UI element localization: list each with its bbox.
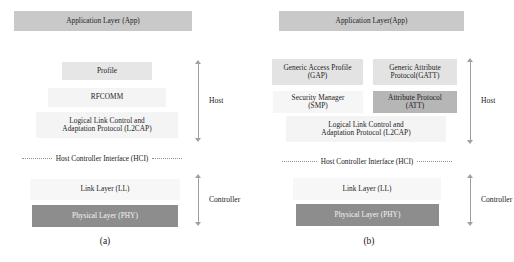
hci-divider-line-left-b xyxy=(282,161,317,162)
layer-smp-b-label-line2: (SMP) xyxy=(308,102,328,110)
bracket-host-a-label: Host xyxy=(209,96,223,105)
layer-l2cap-a-label-line2: Adaptation Protocol (L2CAP) xyxy=(62,125,151,133)
bracket-controller-a-arrow-down xyxy=(195,222,201,226)
layer-gap-b-label-line2: (GAP) xyxy=(308,72,328,80)
bracket-host-b-arrow-down xyxy=(467,140,473,144)
panel-a: Application Layer (App) Profile RFCOMM L… xyxy=(0,0,257,262)
layer-application-a-label: Application Layer (App) xyxy=(66,17,140,25)
layer-link-a: Link Layer (LL) xyxy=(30,179,180,200)
bracket-host-a-arrow-down xyxy=(195,138,201,142)
layer-att-b-label-line2: (ATT) xyxy=(406,102,425,110)
layer-gatt-b-label-line2: Protocol(GATT) xyxy=(391,72,440,80)
hci-divider-label-a: Host Controller Interface (HCI) xyxy=(56,154,149,163)
layer-physical-b-label: Physical Layer (PHY) xyxy=(335,211,401,219)
layer-physical-b: Physical Layer (PHY) xyxy=(296,204,439,226)
layer-application-b-label: Application Layer(App) xyxy=(336,17,408,25)
bracket-controller-b-stem xyxy=(470,177,471,223)
bracket-host-b-label: Host xyxy=(481,96,495,105)
hci-divider-line-right-b xyxy=(417,161,452,162)
bracket-controller-a xyxy=(194,174,203,226)
layer-smp-b: Security Manager (SMP) xyxy=(273,91,363,113)
layer-physical-a-label: Physical Layer (PHY) xyxy=(72,212,138,220)
bracket-host-a-stem xyxy=(198,63,199,139)
layer-l2cap-a: Logical Link Control and Adaptation Prot… xyxy=(36,112,178,138)
caption-a: (a) xyxy=(85,236,125,246)
layer-application-b: Application Layer(App) xyxy=(279,11,464,31)
layer-physical-a: Physical Layer (PHY) xyxy=(32,205,178,227)
bracket-controller-b-label: Controller xyxy=(481,195,512,204)
hci-divider-a: Host Controller Interface (HCI) xyxy=(22,152,182,164)
layer-gap-b: Generic Access Profile (GAP) xyxy=(272,59,363,85)
bracket-host-b xyxy=(466,58,475,144)
layer-link-b-label: Link Layer (LL) xyxy=(343,185,392,193)
bracket-host-b-stem xyxy=(470,61,471,141)
layer-l2cap-b: Logical Link Control and Adaptation Prot… xyxy=(286,116,446,142)
bracket-host-a xyxy=(194,60,203,142)
layer-att-b: Attribute Protocol (ATT) xyxy=(373,91,457,113)
layer-link-b: Link Layer (LL) xyxy=(293,178,441,200)
layer-l2cap-b-label-line2: Adaptation Protocol (L2CAP) xyxy=(321,129,410,137)
layer-rfcomm-a: RFCOMM xyxy=(48,88,166,107)
hci-divider-line-right-a xyxy=(152,158,182,159)
hci-divider-label-b: Host Controller Interface (HCI) xyxy=(321,157,414,166)
hci-divider-b: Host Controller Interface (HCI) xyxy=(282,155,452,167)
bracket-controller-b-arrow-down xyxy=(467,222,473,226)
layer-profile-a: Profile xyxy=(62,62,152,80)
bracket-controller-b xyxy=(466,174,475,226)
layer-profile-a-label: Profile xyxy=(97,67,117,75)
bracket-controller-a-stem xyxy=(198,177,199,223)
bracket-controller-a-label: Controller xyxy=(209,195,240,204)
layer-gatt-b: Generic Attribute Protocol(GATT) xyxy=(373,59,457,85)
panel-b: Application Layer(App) Generic Access Pr… xyxy=(257,0,514,262)
layer-link-a-label: Link Layer (LL) xyxy=(81,185,130,193)
caption-b: (b) xyxy=(349,236,389,246)
layer-application-a: Application Layer (App) xyxy=(14,11,192,31)
hci-divider-line-left-a xyxy=(22,158,52,159)
layer-rfcomm-a-label: RFCOMM xyxy=(91,93,123,101)
